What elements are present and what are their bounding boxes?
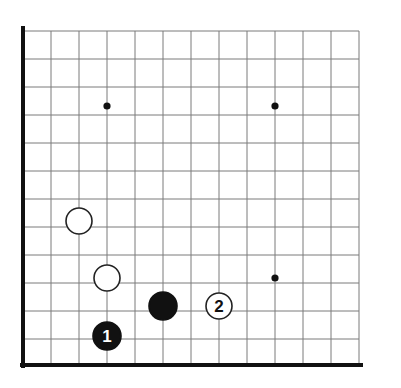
- go-stone-white[interactable]: [94, 265, 120, 291]
- star-point-lower-right: [271, 274, 278, 281]
- go-board[interactable]: 21: [0, 0, 401, 388]
- go-stone-white[interactable]: 2: [206, 293, 232, 319]
- white-stone-middle[interactable]: [94, 265, 120, 291]
- go-stone-white[interactable]: [66, 208, 92, 234]
- go-board-canvas[interactable]: 21: [0, 0, 401, 388]
- board-background: [0, 0, 401, 388]
- star-point-upper-right: [271, 102, 278, 109]
- black-stone-move-1[interactable]: [93, 322, 121, 350]
- go-stone-black[interactable]: 1: [93, 322, 121, 350]
- go-stone-black[interactable]: [149, 292, 177, 320]
- go-diagram-screenshot: 21: [0, 0, 401, 388]
- white-stone-upper[interactable]: [66, 208, 92, 234]
- star-point-upper-left: [103, 102, 110, 109]
- white-stone-move-2[interactable]: [206, 293, 232, 319]
- black-stone-plain[interactable]: [149, 292, 177, 320]
